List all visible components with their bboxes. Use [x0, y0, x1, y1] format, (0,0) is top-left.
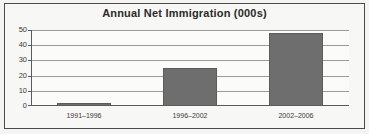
y-tick-label: 0 — [5, 102, 27, 110]
y-tick-label: 50 — [5, 26, 27, 34]
bar-2002-2006[interactable] — [269, 33, 323, 106]
x-axis-category-labels: 1991–1996 1996–2002 2002–2006 — [31, 112, 349, 124]
y-tick-label: 20 — [5, 72, 27, 80]
y-axis-line — [31, 30, 32, 106]
y-axis-tick-labels: 50 40 30 20 10 0 — [0, 30, 27, 106]
x-axis-line — [31, 105, 349, 106]
x-label-1: 1991–1996 — [31, 112, 137, 119]
y-tick-label: 10 — [5, 87, 27, 95]
plot-area — [31, 30, 349, 106]
chart-title: Annual Net Immigration (000s) — [0, 7, 369, 19]
y-tick-label: 40 — [5, 41, 27, 49]
bar-slot-2 — [137, 30, 243, 106]
x-label-2: 1996–2002 — [137, 112, 243, 119]
bar-1996-2002[interactable] — [163, 68, 217, 106]
bar-slot-3 — [243, 30, 349, 106]
bars-layer — [31, 30, 349, 106]
bar-slot-1 — [31, 30, 137, 106]
chart-figure: Annual Net Immigration (000s) 50 40 30 2… — [0, 0, 369, 134]
y-tick-label: 30 — [5, 56, 27, 64]
x-label-3: 2002–2006 — [243, 112, 349, 119]
